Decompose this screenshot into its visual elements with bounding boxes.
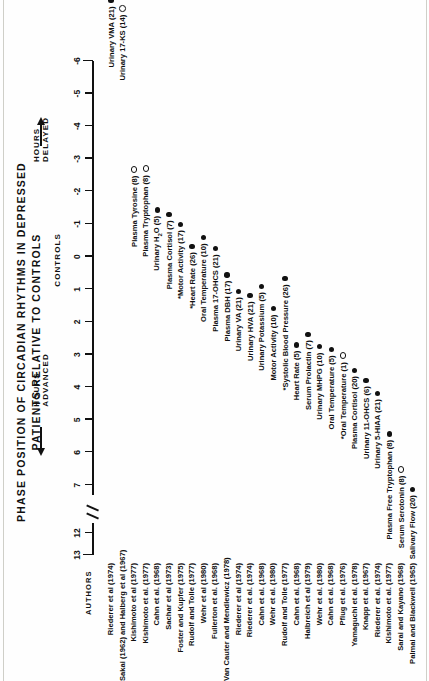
data-point-marker-open [340,352,347,359]
data-point-marker-filled [166,212,171,217]
data-point-marker-open [143,165,150,172]
data-point-row[interactable]: Plasma Tyrosine (8) [129,166,139,247]
data-point-marker-filled [201,235,206,240]
axis-tick--5 [85,92,93,93]
data-point-label: Plasma 17-OHCS (21) [211,254,220,331]
data-point-marker-filled [213,246,218,251]
data-point-row[interactable]: Urinary VA (21) [234,289,244,352]
data-point-marker-filled [271,306,276,311]
data-point-marker-filled [108,0,113,3]
data-point-label: Oral Temperature (5) [327,355,336,429]
data-point-marker-filled [363,378,368,383]
data-point-row[interactable]: Urinary 17-KS (14) [118,5,128,81]
data-point-marker-filled [375,391,380,396]
data-point-row[interactable]: *Motor Activity (17) [176,222,186,300]
data-point-label: Urinary H2O (5) [152,216,163,271]
data-point-label: Heart Rate (5) [292,351,301,400]
axis-tick-label-12: 12 [72,523,82,543]
data-point-row[interactable]: Motor Activity (10) [268,306,278,381]
data-point-row[interactable]: Plasma Cortisol (20) [350,368,360,450]
data-point-label: Plasma Cortisol (7) [165,221,174,290]
author-citation: Pflug et al. (1976) [338,563,347,681]
data-point-marker-filled [329,347,334,352]
author-citation: Cahn et al. (1968) [257,563,266,681]
data-point-row[interactable]: Urinary VMA (21) [106,0,116,68]
data-point-row[interactable]: Salivary Flow (20) [408,487,418,560]
data-point-row[interactable]: Serum Prolactin (7) [303,332,313,410]
data-point-marker-filled [410,487,415,492]
data-point-marker-filled [189,244,194,249]
data-point-label: Plasma DBH (17) [223,281,232,342]
author-citation: Fullerton et al. (1968) [210,563,219,681]
data-point-marker-filled [282,276,287,281]
axis-tick-label--3: -3 [72,149,82,169]
data-point-row[interactable]: *Heart Rate (26) [187,244,197,309]
data-point-marker-filled [236,289,241,294]
data-point-row[interactable]: Urinary 11-OHCS (6) [361,378,371,459]
authors-column-header: AUTHORS [84,571,93,615]
data-point-row[interactable]: *Oral Temperature (1) [338,352,348,439]
data-point-row[interactable]: Plasma 17-OHCS (21) [210,246,220,332]
data-point-marker-filled [224,272,229,277]
figure-title-line-2: PATIENTS RELATIVE TO CONTROLS [29,107,44,577]
axis-center-label: CONTROLS [53,233,62,287]
axis-tick--2 [85,190,93,191]
data-point-row[interactable]: Plasma Cortisol (7) [164,212,174,289]
data-point-row[interactable]: Serum Serotonin (8) [396,466,406,548]
data-point-row[interactable]: Urinary H2O (5) [152,207,163,270]
data-point-label: Plasma Free Tryptophan (8) [385,440,394,540]
data-point-label: Urinary HVA (21) [246,302,255,362]
data-point-row[interactable]: Urinary 5-HIAA (21) [373,391,383,469]
author-citation: Palmai and Blackwell (1965) [408,563,417,681]
author-citation: Knapp et al. (1967) [361,563,370,681]
data-point-label: *Motor Activity (17) [176,230,185,299]
data-point-label: Urinary Potassium (5) [257,292,266,371]
data-point-marker-filled [387,431,392,436]
data-point-row[interactable]: *Systolic Blood Pressure (26) [280,276,290,391]
axis-break-mark [86,513,98,520]
data-point-label: Plasma Cortisol (20) [350,376,359,449]
data-point-label: Urinary 11-OHCS (6) [362,386,371,459]
axis-tick-label--6: -6 [72,51,82,71]
figure-page: PHASE POSITION OF CIRCADIAN RHYTHMS IN D… [0,0,429,681]
axis-tick-label-1: 1 [72,279,82,299]
author-citation: Rudolf and Tolle (1977) [280,563,289,681]
author-citation: Yamaguchi et al. (1978) [350,563,359,681]
axis-tick-3 [85,353,93,354]
data-point-row[interactable]: Oral Temperature (10) [199,235,209,322]
data-point-row[interactable]: Urinary HVA (21) [245,293,255,361]
data-point-label: Urinary VMA (21) [107,7,116,68]
axis-tick-4 [85,386,93,387]
data-point-marker-filled [155,207,160,212]
author-citation: Halbreich et al (1979) [303,563,312,681]
author-citation: Sarai and Kayano (1968) [396,563,405,681]
axis-break-mark-2 [86,505,98,512]
data-point-row[interactable]: Oral Temperature (5) [326,347,336,430]
data-point-row[interactable]: Plasma DBH (17) [222,272,232,341]
data-point-row[interactable]: Plasma Free Tryptophan (8) [384,431,394,539]
author-citation: Riederer et al. (1974) [373,563,382,681]
author-citation: Rudolf and Tolle (1977) [187,563,196,681]
data-point-row[interactable]: Urinary MHPG (10) [315,344,325,420]
author-citation: Van Cauter and Mendlewicz (1978) [222,563,231,681]
author-citation: Cahn et al. (1968) [152,563,161,681]
data-point-label: *Systolic Blood Pressure (26) [281,284,290,390]
data-point-label: Salivary Flow (20) [408,495,417,559]
axis-tick-label-0: 0 [72,247,82,267]
axis-line-left [92,523,94,555]
axis-tick-7 [85,484,93,485]
axis-tick-label-4: 4 [72,377,82,397]
figure-title: PHASE POSITION OF CIRCADIAN RHYTHMS IN D… [14,107,44,577]
axis-tick--6 [85,60,93,61]
data-point-row[interactable]: Plasma Tryptophan (8) [141,165,151,256]
author-citation: Kishimoto et al (1977) [129,563,138,681]
rotated-figure: PHASE POSITION OF CIRCADIAN RHYTHMS IN D… [0,0,429,681]
axis-tick-label--1: -1 [72,214,82,234]
axis-tick-label-3: 3 [72,345,82,365]
author-citation: Foster and Kupfer (1975) [176,563,185,681]
data-point-row[interactable]: Heart Rate (5) [292,342,302,400]
arrow-delayed [40,124,42,146]
data-point-row[interactable]: Urinary Potassium (5) [257,284,267,371]
author-citation: Wehr et al. (1980) [268,563,277,681]
axis-tick-label-2: 2 [72,312,82,332]
